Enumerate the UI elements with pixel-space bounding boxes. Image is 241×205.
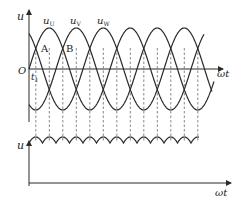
phase-v-label: uV bbox=[70, 15, 81, 27]
top-x-axis-label: ωt bbox=[217, 68, 230, 79]
top-y-axis-label: u bbox=[17, 10, 24, 23]
point-a-label: A bbox=[40, 43, 49, 54]
bottom-x-axis-label: ωt bbox=[215, 187, 228, 198]
origin-label: O bbox=[18, 65, 26, 76]
point-b-label: B bbox=[66, 43, 73, 54]
t1-label: t1 bbox=[31, 72, 38, 83]
phase-w-label: uW bbox=[97, 15, 110, 27]
waveform-diagram: u O t1 ωt uU uV uW A B u ωt bbox=[0, 0, 241, 205]
bottom-y-axis-label: u bbox=[17, 139, 24, 152]
phase-u-label: uU bbox=[43, 15, 55, 27]
projection-dashed-lines bbox=[36, 48, 198, 142]
rectified-output-ripple bbox=[29, 137, 199, 143]
